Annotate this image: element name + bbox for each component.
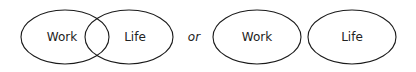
separate-circles: Work Life <box>213 10 396 64</box>
venn-work-label: Work <box>47 30 77 44</box>
or-connector: or <box>188 30 201 44</box>
separate-work-label: Work <box>242 30 272 44</box>
venn-life-label: Life <box>124 30 146 44</box>
overlapping-venn: Work Life <box>21 10 173 64</box>
separate-life-label: Life <box>341 30 363 44</box>
work-life-diagram: Work Life or Work Life <box>0 0 416 72</box>
